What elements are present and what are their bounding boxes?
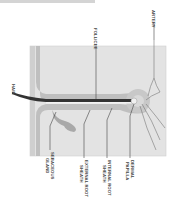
hair-follicle-diagram: HAIR FOLLICLE ARTERY SEBACEOUS GLAND EXT… bbox=[0, 0, 172, 199]
label-sebaceous-2: GLAND bbox=[45, 158, 50, 173]
label-external-2: SHEATH bbox=[79, 165, 84, 183]
dermal-papilla bbox=[131, 98, 137, 104]
label-hair: HAIR bbox=[11, 84, 16, 95]
label-dermal-2: PAPILLA bbox=[125, 162, 130, 180]
inner-sheath-highlight bbox=[46, 102, 132, 104]
label-artery: ARTERY bbox=[151, 10, 156, 28]
label-internal-2: SHEATH bbox=[102, 165, 107, 183]
label-follicle: FOLLICLE bbox=[93, 28, 98, 49]
